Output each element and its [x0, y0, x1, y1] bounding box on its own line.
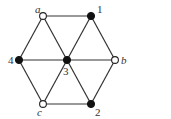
node-a	[40, 13, 47, 20]
node-2	[87, 100, 94, 107]
node-label-3: 3	[63, 65, 69, 77]
edge-a-3	[43, 16, 67, 60]
node-label-2: 2	[95, 106, 101, 118]
edge-1-b	[91, 16, 115, 60]
node-label-1: 1	[97, 3, 103, 15]
node-3	[63, 56, 70, 63]
node-label-a: a	[35, 3, 41, 15]
graph-diagram: a143bc2	[0, 0, 171, 119]
edge-4-c	[19, 60, 43, 104]
edge-1-3	[67, 16, 91, 60]
edge-a-4	[19, 16, 43, 60]
edge-3-2	[67, 60, 91, 104]
node-label-4: 4	[8, 54, 14, 66]
node-4	[15, 56, 22, 63]
node-label-c: c	[37, 106, 42, 118]
node-1	[87, 12, 94, 19]
node-b	[112, 57, 119, 64]
node-label-b: b	[121, 54, 127, 66]
edge-b-2	[91, 60, 115, 104]
